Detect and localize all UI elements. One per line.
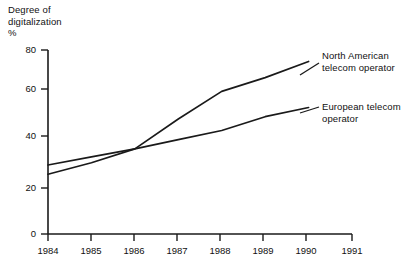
x-tick-label-1991: 1991 [341,245,362,256]
y-tick-label-40: 40 [25,130,36,141]
y-tick-label-0: 0 [31,228,36,239]
series-line-european [48,108,309,166]
y-tick-label-80: 80 [25,44,36,55]
x-tick-label-1989: 1989 [252,245,273,256]
chart-plot-area: 80 60 40 20 0 1984 1985 1986 1987 1988 1… [0,0,414,261]
x-tick-label-1986: 1986 [123,245,144,256]
x-tick-label-1984: 1984 [37,245,58,256]
x-tick-label-1990: 1990 [295,245,316,256]
annotation-north-american-label: North American telecom operator [322,50,395,73]
x-tick-label-1987: 1987 [166,245,187,256]
leader-line-north-american [300,63,319,75]
annotation-european-label: European telecom operator [322,101,401,124]
y-tick-label-20: 20 [25,182,36,193]
chart-figure: Degree of digitalization % 80 60 40 20 0… [0,0,414,261]
x-tick-label-1988: 1988 [209,245,230,256]
y-tick-label-60: 60 [25,83,36,94]
x-tick-label-1985: 1985 [80,245,101,256]
